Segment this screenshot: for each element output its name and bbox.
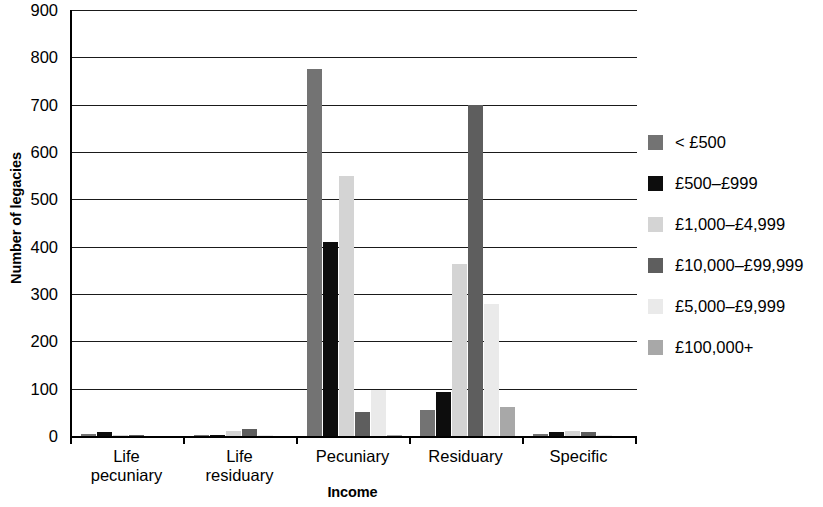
x-axis-tick-mark (183, 436, 185, 444)
y-axis-tick-label: 200 (0, 333, 58, 350)
legend-swatch-icon (648, 299, 663, 314)
y-axis-tick-label: 600 (0, 144, 58, 161)
x-axis-title: Income (70, 484, 635, 500)
legend-item: £10,000–£99,999 (648, 245, 823, 286)
y-axis-tick-label: 800 (0, 49, 58, 66)
bar-group (411, 10, 524, 436)
x-axis-tick-mark (409, 436, 411, 444)
bar (500, 407, 515, 436)
legend-item: < £500 (648, 122, 823, 163)
y-axis-tick-label: 900 (0, 2, 58, 19)
x-axis-tick-mark (296, 436, 298, 444)
bar-group (298, 10, 411, 436)
bar (307, 69, 322, 436)
legend-item: £5,000–£9,999 (648, 286, 823, 327)
bar (355, 412, 370, 436)
bar (242, 429, 257, 436)
legend-item: £500–£999 (648, 163, 823, 204)
x-axis-tick-mark (70, 436, 72, 444)
legend-label: £1,000–£4,999 (675, 216, 785, 233)
legend-swatch-icon (648, 176, 663, 191)
plot-area (70, 10, 637, 438)
legend-item: £100,000+ (648, 327, 823, 368)
y-axis-tick-labels: 9008007006005004003002001000 (0, 0, 66, 447)
bar (436, 392, 451, 436)
bar (420, 410, 435, 436)
y-axis-tick-label: 100 (0, 380, 58, 397)
bar-group (72, 10, 185, 436)
y-axis-tick-label: 400 (0, 238, 58, 255)
y-axis-tick-label: 700 (0, 96, 58, 113)
bar (468, 105, 483, 436)
bar (323, 242, 338, 436)
legend: < £500£500–£999£1,000–£4,999£10,000–£99,… (648, 122, 823, 368)
y-axis-tick-label: 0 (0, 428, 58, 445)
x-axis-tick-marks (70, 436, 637, 444)
legend-swatch-icon (648, 340, 663, 355)
x-axis-tick-mark (635, 436, 637, 444)
legend-swatch-icon (648, 217, 663, 232)
bar-group (185, 10, 298, 436)
legend-swatch-icon (648, 258, 663, 273)
legend-swatch-icon (648, 135, 663, 150)
x-axis-tick-mark (522, 436, 524, 444)
legend-label: £5,000–£9,999 (675, 298, 785, 315)
x-axis-tick-label: Life residuary (183, 447, 296, 485)
bar (339, 176, 354, 436)
y-axis-tick-label: 300 (0, 286, 58, 303)
bar (484, 304, 499, 436)
legend-label: < £500 (675, 134, 726, 151)
bar (452, 264, 467, 436)
bar-group (524, 10, 637, 436)
x-axis-tick-labels: Life pecuniaryLife residuaryPecuniaryRes… (70, 447, 635, 485)
x-axis-tick-label: Specific (522, 447, 635, 485)
legend-item: £1,000–£4,999 (648, 204, 823, 245)
y-axis-tick-label: 500 (0, 191, 58, 208)
x-axis-tick-label: Pecuniary (296, 447, 409, 485)
bar-chart: Number of legacies 900800700600500400300… (0, 0, 823, 507)
legend-label: £100,000+ (675, 339, 753, 356)
x-axis-tick-label: Life pecuniary (70, 447, 183, 485)
legend-label: £500–£999 (675, 175, 758, 192)
x-axis-tick-label: Residuary (409, 447, 522, 485)
bar (371, 390, 386, 436)
legend-label: £10,000–£99,999 (675, 257, 803, 274)
bar-groups (72, 10, 637, 436)
